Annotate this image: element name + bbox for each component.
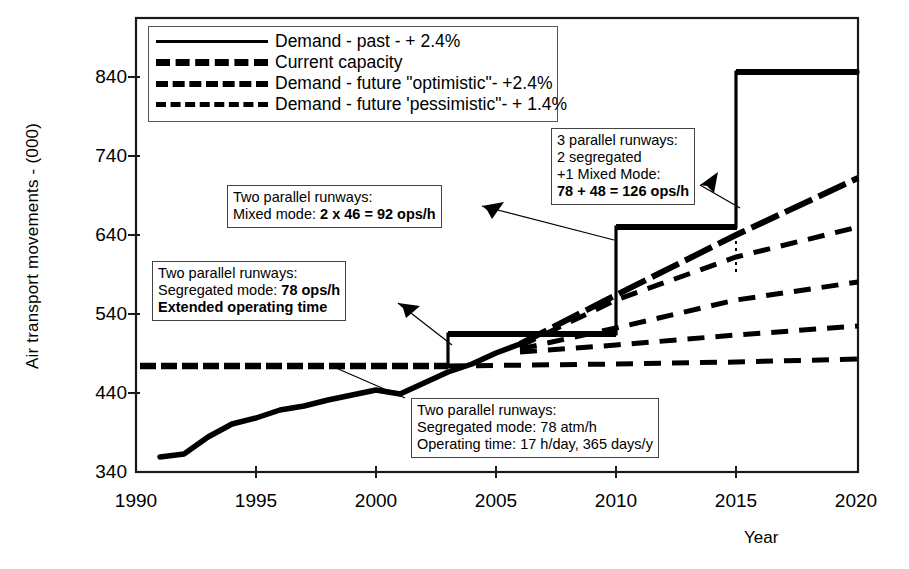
series-demand-future-pessimistic-lower	[520, 326, 858, 352]
callout-segregated-extended-line2: Segregated mode: 78 ops/h	[158, 282, 340, 299]
callout-three-runways-line2: 2 segregated	[557, 149, 689, 166]
legend-label-optimistic: Demand - future "optimistic"- +2.4%	[275, 74, 552, 93]
y-tick-marks	[128, 77, 140, 393]
callout-mixed-mode-line1: Two parallel runways:	[233, 189, 436, 206]
callout-segregated-base-line2: Segregated mode: 78 atm/h	[417, 419, 653, 436]
legend-key-optimistic-line	[156, 81, 268, 87]
legend-item-current-capacity: Current capacity	[156, 52, 550, 73]
callout-segregated-extended-line1: Two parallel runways:	[158, 265, 340, 282]
callout-mixed-mode-line2-prefix: Mixed mode:	[233, 206, 320, 222]
leader-line-mixed-mode	[482, 206, 614, 240]
legend-label-demand-past: Demand - past - + 2.4%	[275, 32, 460, 51]
chart-figure: Air transport movements - (000) 840 740 …	[0, 0, 909, 569]
chart-legend: Demand - past - + 2.4% Current capacity …	[148, 26, 558, 122]
legend-key-capacity-line	[156, 59, 268, 66]
callout-segregated-base-line1: Two parallel runways:	[417, 402, 653, 419]
callout-segregated-extended: Two parallel runways: Segregated mode: 7…	[152, 261, 346, 321]
arrow-head-segregated-extended	[398, 303, 420, 318]
legend-item-demand-past: Demand - past - + 2.4%	[156, 31, 550, 52]
legend-label-current-capacity: Current capacity	[275, 53, 402, 72]
callout-mixed-mode-line2: Mixed mode: 2 x 46 = 92 ops/h	[233, 206, 436, 223]
callout-segregated-extended-line3: Extended operating time	[158, 299, 340, 316]
leader-line-three-runways	[700, 185, 740, 208]
callout-three-runways-line3: +1 Mixed Mode:	[557, 166, 689, 183]
series-demand-future-pessimistic-lowest	[448, 359, 858, 366]
callout-three-parallel-runways: 3 parallel runways: 2 segregated +1 Mixe…	[551, 128, 695, 205]
legend-key-solid-line	[156, 40, 268, 43]
callout-segregated-extended-line2-value: 78 ops/h	[281, 282, 340, 298]
callout-three-runways-line4: 78 + 48 = 126 ops/h	[557, 183, 689, 200]
legend-key-pessimistic-line	[156, 102, 268, 107]
callout-three-runways-line1: 3 parallel runways:	[557, 132, 689, 149]
legend-item-optimistic: Demand - future "optimistic"- +2.4%	[156, 73, 550, 94]
callout-segregated-extended-line2-prefix: Segregated mode:	[158, 282, 281, 298]
legend-item-pessimistic: Demand - future 'pessimistic"- + 1.4%	[156, 94, 550, 115]
callout-segregated-base-line3: Operating time: 17 h/day, 365 days/y	[417, 436, 653, 453]
legend-label-pessimistic: Demand - future 'pessimistic"- + 1.4%	[275, 95, 567, 114]
callout-mixed-mode: Two parallel runways: Mixed mode: 2 x 46…	[227, 185, 442, 228]
callout-mixed-mode-line2-value: 2 x 46 = 92 ops/h	[320, 206, 436, 222]
callout-segregated-base: Two parallel runways: Segregated mode: 7…	[411, 398, 659, 458]
